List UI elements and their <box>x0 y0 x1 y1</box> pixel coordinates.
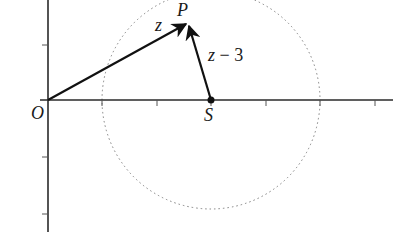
origin-label: O <box>31 104 44 122</box>
vector-z-label: z <box>155 16 162 34</box>
label-num: 3 <box>234 45 243 65</box>
vector-z-minus-3-label: z − 3 <box>208 46 243 64</box>
label-op: − <box>220 45 230 65</box>
label-var: z <box>208 45 215 65</box>
vector-z-arrow <box>48 24 186 100</box>
argand-diagram: O P S z z − 3 <box>0 0 411 234</box>
point-p-label: P <box>177 1 188 19</box>
point-s-dot <box>208 97 215 104</box>
real-axis-ticks <box>102 100 375 106</box>
point-s-label: S <box>204 106 213 124</box>
imaginary-axis-ticks <box>42 45 48 214</box>
